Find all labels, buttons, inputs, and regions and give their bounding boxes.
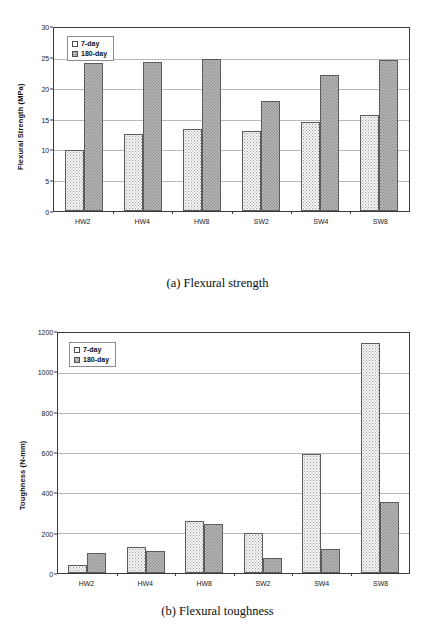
y-tick-label: 800 (42, 409, 53, 416)
y-tick-label: 400 (42, 490, 53, 497)
y-tick-mark (54, 332, 57, 333)
y-tick-mark (54, 412, 57, 413)
bar-sw2-7-day (242, 131, 261, 211)
figure-caption-a: (a) Flexural strength (0, 276, 435, 291)
bar-group (291, 28, 350, 211)
bar-sw8-7-day (361, 343, 380, 573)
figure-caption-b: (b) Flexural toughness (0, 604, 435, 619)
y-tick-mark (50, 150, 53, 151)
legend-label-7day: 7-day (83, 346, 101, 353)
y-tick-mark (54, 574, 57, 575)
y-tick-label: 15 (41, 116, 49, 123)
y-tick-mark (54, 533, 57, 534)
y-tick-mark (54, 372, 57, 373)
x-tick-label-sw4: SW4 (291, 218, 351, 225)
bar-hw8-180-day (204, 524, 223, 573)
x-tick-label-hw2: HW2 (53, 218, 113, 225)
x-tick-label-sw2: SW2 (233, 580, 292, 587)
legend-item-180day: 180-day (74, 356, 109, 363)
x-tick-label-hw4: HW4 (113, 218, 173, 225)
x-tick-label-hw8: HW8 (175, 580, 234, 587)
x-tick-mark (232, 211, 233, 214)
y-tick-label: 30 (41, 24, 49, 31)
bar-group (58, 333, 117, 573)
y-axis-title-a: Flexural Strength (MPa) (16, 84, 25, 170)
y-tick-mark (50, 181, 53, 182)
bar-hw2-7-day (65, 150, 84, 211)
legend-label-180day: 180-day (83, 356, 109, 363)
y-tick-mark (54, 493, 57, 494)
bar-hw2-180-day (87, 553, 106, 573)
bar-group (292, 333, 351, 573)
bar-hw8-7-day (185, 521, 204, 573)
legend-swatch-7day-icon (72, 41, 78, 47)
bar-sw2-180-day (261, 101, 280, 211)
x-tick-mark (113, 211, 114, 214)
bar-hw2-7-day (68, 565, 87, 573)
bar-hw8-180-day (202, 59, 221, 212)
bar-group (234, 333, 293, 573)
y-tick-mark (50, 88, 53, 89)
y-tick-mark (50, 212, 53, 213)
y-tick-label: 5 (45, 178, 49, 185)
legend-a: 7-day 180-day (67, 36, 114, 61)
y-tick-mark (50, 119, 53, 120)
bar-group (113, 28, 172, 211)
y-tick-label: 0 (45, 209, 49, 216)
bar-group (232, 28, 291, 211)
x-tick-mark (172, 211, 173, 214)
bar-group (350, 28, 409, 211)
x-tick-mark (350, 211, 351, 214)
bars-layer-b (58, 333, 409, 573)
legend-swatch-7day-icon (74, 347, 80, 353)
bar-sw8-180-day (380, 502, 399, 573)
x-tick-mark (234, 573, 235, 576)
y-axis-title-b: Toughness (N-mm) (18, 441, 27, 510)
y-tick-label: 200 (42, 530, 53, 537)
x-tick-mark (351, 573, 352, 576)
bar-sw4-180-day (320, 75, 339, 211)
bar-group (175, 333, 234, 573)
y-tick-label: 1000 (38, 369, 53, 376)
bar-hw4-180-day (143, 62, 162, 211)
legend-b: 7-day 180-day (69, 342, 116, 367)
bar-hw4-180-day (146, 551, 165, 573)
legend-label-7day: 7-day (81, 40, 99, 47)
x-tick-label-hw4: HW4 (116, 580, 175, 587)
bar-group (172, 28, 231, 211)
figure-page: Flexural Strength (MPa) 051015202530 HW2… (0, 0, 435, 635)
x-tick-label-sw2: SW2 (232, 218, 292, 225)
bar-hw2-180-day (84, 63, 103, 211)
figure-flexural-toughness: Toughness (N-mm) 020040060080010001200 H… (0, 305, 435, 635)
legend-swatch-180day-icon (72, 51, 78, 57)
x-tick-mark (117, 573, 118, 576)
bar-sw4-7-day (301, 122, 320, 211)
bar-hw4-7-day (124, 134, 143, 211)
y-tick-label: 20 (41, 85, 49, 92)
bar-sw2-180-day (263, 558, 282, 573)
x-tick-label-hw2: HW2 (57, 580, 116, 587)
y-tick-label: 1200 (38, 329, 53, 336)
legend-label-180day: 180-day (81, 50, 107, 57)
bar-hw4-7-day (127, 547, 146, 573)
bar-sw8-7-day (360, 115, 379, 211)
y-tick-label: 10 (41, 147, 49, 154)
bar-sw4-180-day (321, 549, 340, 573)
figure-flexural-strength: Flexural Strength (MPa) 051015202530 HW2… (0, 0, 435, 305)
x-tick-label-sw8: SW8 (351, 580, 410, 587)
x-tick-mark (291, 211, 292, 214)
x-tick-label-sw4: SW4 (292, 580, 351, 587)
bar-sw8-180-day (379, 60, 398, 211)
plot-wrapper-a: 051015202530 HW2HW4HW8SW2SW4SW8 7-day 18… (53, 27, 410, 212)
x-axis-labels-b: HW2HW4HW8SW2SW4SW8 (57, 580, 410, 587)
x-tick-mark (175, 573, 176, 576)
y-tick-label: 25 (41, 54, 49, 61)
y-tick-label: 0 (49, 571, 53, 578)
x-tick-label-hw8: HW8 (172, 218, 232, 225)
x-tick-mark (292, 573, 293, 576)
y-tick-label: 600 (42, 450, 53, 457)
plot-area-b (57, 332, 410, 574)
x-tick-label-sw8: SW8 (351, 218, 411, 225)
legend-item-7day: 7-day (72, 40, 107, 47)
bar-sw4-7-day (302, 454, 321, 573)
